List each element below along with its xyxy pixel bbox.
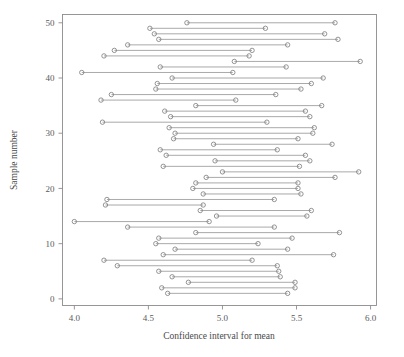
chart-canvas: 4.04.55.05.56.0 01020304050 Confidence i… <box>0 0 404 357</box>
confidence-interval-chart: 4.04.55.05.56.0 01020304050 Confidence i… <box>0 0 404 357</box>
y-tick-label: 40 <box>46 73 56 83</box>
x-tick-label: 4.5 <box>143 313 155 323</box>
y-tick-label: 20 <box>46 184 56 194</box>
x-tick-label: 6.0 <box>365 313 377 323</box>
x-tick-label: 5.5 <box>291 313 303 323</box>
y-axis-title: Sample number <box>9 129 19 190</box>
x-tick-label: 4.0 <box>69 313 81 323</box>
y-tick-label: 0 <box>50 294 55 304</box>
y-tick-label: 30 <box>46 128 56 138</box>
x-axis-title: Confidence interval for mean <box>163 331 275 341</box>
chart-background <box>0 0 404 357</box>
x-tick-label: 5.0 <box>217 313 229 323</box>
y-tick-label: 50 <box>46 18 56 28</box>
y-tick-label: 10 <box>46 239 56 249</box>
